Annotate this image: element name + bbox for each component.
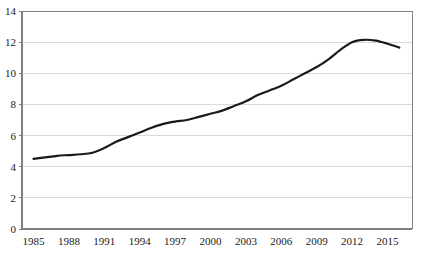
y-tick-label: 0 [0, 224, 16, 235]
line-chart: 02468101214 1985198819911994199720002003… [0, 0, 430, 256]
y-tick-label: 10 [0, 68, 16, 79]
y-tick-label: 2 [0, 192, 16, 203]
x-tick-label: 1994 [129, 236, 151, 247]
x-tick-label: 2009 [306, 236, 328, 247]
chart-axes [19, 11, 412, 229]
x-tick-label: 2006 [270, 236, 292, 247]
data-line-series-1 [34, 40, 400, 159]
y-tick-label: 12 [0, 37, 16, 48]
data-line-path [34, 40, 400, 159]
x-tick-label: 1988 [58, 236, 80, 247]
x-tick-label: 2003 [235, 236, 257, 247]
y-tick-label: 14 [0, 6, 16, 17]
x-tick-label: 1997 [164, 236, 186, 247]
y-tick-label: 4 [0, 161, 16, 172]
y-tick-label: 8 [0, 99, 16, 110]
x-tick-label: 2000 [200, 236, 222, 247]
gridlines [22, 11, 412, 198]
x-tick-label: 1985 [23, 236, 45, 247]
x-tick-label: 2015 [377, 236, 399, 247]
y-tick-label: 6 [0, 130, 16, 141]
x-tick-label: 2012 [341, 236, 363, 247]
x-tick-label: 1991 [93, 236, 115, 247]
chart-canvas [0, 0, 430, 256]
